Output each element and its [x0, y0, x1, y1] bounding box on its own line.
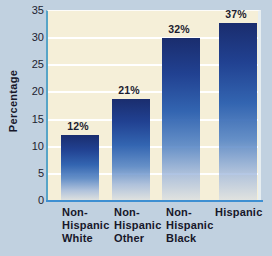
x-axis-line [46, 200, 263, 202]
bar-1 [61, 135, 99, 201]
bar-value-label-1: 12% [48, 120, 108, 132]
y-tick-30: 30 [4, 32, 44, 43]
bar-value-label-2: 21% [99, 84, 159, 96]
y-tick-5: 5 [4, 168, 44, 179]
y-tick-20: 20 [4, 86, 44, 97]
y-axis-title: Percentage [7, 21, 21, 181]
y-tick-35: 35 [4, 5, 44, 16]
y-tick-0: 0 [4, 195, 44, 206]
y-tick-15: 15 [4, 114, 44, 125]
y-tick-25: 25 [4, 59, 44, 70]
y-tick-10: 10 [4, 141, 44, 152]
x-category-label-2: Non- Hispanic Other [114, 206, 161, 245]
bar-chart-figure: Percentage 05101520253035 12%21%32%37% N… [0, 0, 272, 256]
x-category-label-3: Non- Hispanic Black [166, 206, 213, 245]
plot-area [46, 10, 261, 201]
bar-value-label-3: 32% [149, 23, 209, 35]
bar-2 [112, 99, 150, 201]
bar-3 [162, 38, 200, 201]
bar-4 [219, 23, 257, 201]
bar-value-label-4: 37% [206, 8, 266, 20]
x-category-label-1: Non- Hispanic White [62, 206, 109, 245]
x-category-label-4: Hispanic [215, 206, 262, 219]
